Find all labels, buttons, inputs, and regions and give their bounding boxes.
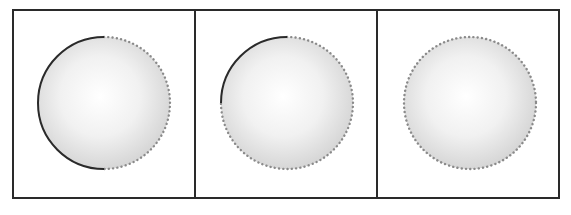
panel-3: [404, 37, 536, 169]
panel-2: [221, 37, 353, 169]
sphere-panels: [0, 0, 571, 215]
panel-1: [38, 37, 170, 169]
